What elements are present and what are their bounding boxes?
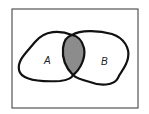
venn-diagram: A B: [0, 0, 149, 114]
set-a-label: A: [43, 55, 51, 66]
set-b-label: B: [101, 56, 108, 67]
